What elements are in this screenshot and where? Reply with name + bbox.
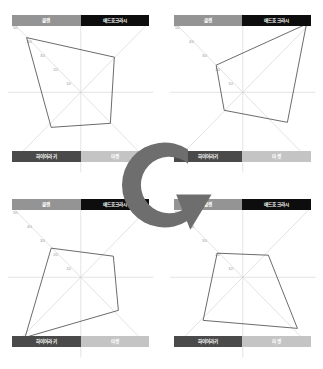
tick-50: 50	[13, 210, 18, 215]
tick-10: 10	[228, 81, 233, 86]
axis-label-hierarchy: 하이어라키	[174, 336, 243, 347]
data-polygon	[25, 248, 118, 337]
axis-label-adhocracy: 애드호크라시	[81, 15, 150, 26]
tick-labels: 50 40 30 20 10	[175, 25, 234, 86]
axis-label-clan: 클랜	[12, 199, 81, 210]
axis-lines	[8, 14, 153, 172]
tick-10: 10	[66, 266, 71, 271]
axis-lines	[170, 199, 315, 357]
tick-20: 20	[53, 252, 58, 257]
radar-chart-grid: 50 40 30 20 10 클랜 애드호크라시 하이어라키 마켓 5	[0, 0, 323, 369]
axis-label-adhocracy: 애드호크라시	[242, 199, 311, 210]
axis-label-market: 마켓	[242, 151, 311, 162]
tick-50: 50	[175, 210, 180, 215]
tick-10: 10	[66, 81, 71, 86]
axis-label-clan: 클랜	[174, 199, 243, 210]
tick-50: 50	[13, 25, 18, 30]
tick-30: 30	[40, 53, 45, 58]
tick-30: 30	[40, 238, 45, 243]
axis-label-market: 마켓	[81, 151, 150, 162]
tick-30: 30	[202, 53, 207, 58]
tick-40: 40	[189, 39, 194, 44]
axis-label-market: 마켓	[242, 336, 311, 347]
axis-label-hierarchy: 하이어라키	[12, 336, 81, 347]
axis-label-adhocracy: 애드호크라시	[81, 199, 150, 210]
tick-10: 10	[228, 266, 233, 271]
tick-40: 40	[27, 224, 32, 229]
tick-50: 50	[175, 25, 180, 30]
radar-panel-bottom-right: 50 40 30 20 10 클랜 애드호크라시 하이어라키 마켓	[162, 185, 323, 369]
axis-label-market: 마켓	[81, 336, 150, 347]
tick-labels: 50 40 30 20 10	[175, 210, 234, 271]
axis-label-clan: 클랜	[174, 15, 243, 26]
tick-labels: 50 40 30 20 10	[13, 25, 72, 86]
tick-labels: 50 40 30 20 10	[13, 210, 72, 271]
data-polygon	[203, 253, 297, 328]
tick-40: 40	[189, 224, 194, 229]
axis-lines	[170, 14, 315, 172]
tick-20: 20	[53, 67, 58, 72]
axis-label-hierarchy: 하이어라키	[174, 151, 243, 162]
axis-label-clan: 클랜	[12, 15, 81, 26]
radar-panel-top-left: 50 40 30 20 10 클랜 애드호크라시 하이어라키 마켓	[0, 0, 162, 185]
axis-label-hierarchy: 하이어라키	[12, 151, 81, 162]
tick-20: 20	[215, 67, 220, 72]
axis-label-adhocracy: 애드호크라시	[242, 15, 311, 26]
axis-lines	[8, 199, 153, 357]
radar-panel-top-right: 50 40 30 20 10 클랜 애드호크라시 하이어라키 마켓	[162, 0, 323, 185]
tick-30: 30	[202, 238, 207, 243]
radar-panel-bottom-left: 50 40 30 20 10 클랜 애드호크라시 하이어라키 마켓	[0, 185, 162, 369]
